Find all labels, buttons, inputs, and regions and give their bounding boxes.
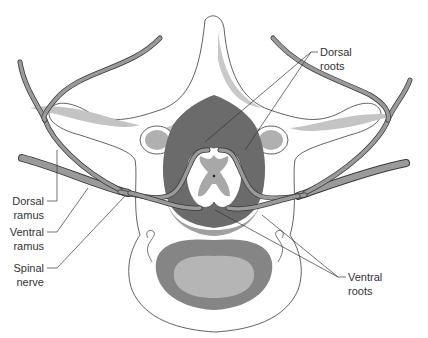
label-dorsal-ramus: Dorsal ramus [10, 194, 44, 222]
label-dorsal-roots: Dorsal roots [320, 45, 352, 73]
central-canal [213, 175, 216, 178]
label-spinal-nerve: Spinal nerve [10, 261, 44, 289]
label-ventral-ramus: Ventral ramus [8, 225, 44, 253]
label-ventral-roots: Ventral roots [348, 270, 382, 298]
vertebral-body-inner [174, 256, 254, 298]
